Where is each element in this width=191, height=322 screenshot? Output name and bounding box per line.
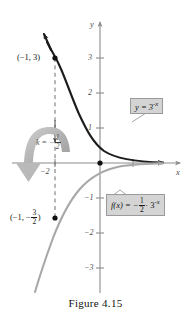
callout-parent-base: y = 3: [135, 102, 153, 112]
point-label-transformed-fraction: 32: [31, 209, 37, 225]
coordinate-plot: [0, 0, 191, 322]
point-label-transformed-tail: ): [38, 212, 41, 222]
figure-container: y x 3 2 1 −1 −2 −3 −2 (−1, 3) (−1, −32) …: [0, 0, 191, 322]
figure-caption: Figure 4.15: [0, 297, 191, 309]
y-tick-label-neg3: −3: [84, 264, 93, 272]
marked-point-transformed: [52, 215, 57, 220]
arrow-label-lead: k = −: [36, 138, 54, 147]
y-tick-label-1: 1: [88, 124, 92, 132]
x-tick-label-neg2: −2: [40, 168, 49, 176]
point-label-parent: (−1, 3): [17, 53, 40, 62]
curve-transformed-function: [35, 163, 163, 292]
y-axis-label: y: [90, 20, 94, 29]
y-intercept-parent-point: [97, 160, 102, 165]
point-label-transformed-lead: (−1, −: [10, 212, 31, 222]
y-tick-label-3: 3: [88, 54, 92, 62]
callout-transformed-lead: f(x) = −: [111, 200, 139, 210]
callout-parent-exponent: -x: [153, 100, 158, 107]
arrow-label-fraction: 12: [55, 134, 61, 150]
transformation-arrow-label: k = −12: [36, 134, 61, 150]
callout-transformed-mid: · 3: [145, 200, 154, 210]
point-label-transformed: (−1, −32): [10, 209, 41, 225]
callout-transformed-function: f(x) = −12· 3-x: [106, 194, 165, 216]
y-tick-label-neg1: −1: [84, 194, 93, 202]
y-tick-label-neg2: −2: [84, 229, 93, 237]
y-tick-label-2: 2: [88, 89, 92, 97]
callout-transformed-fraction: 12: [139, 197, 145, 213]
transformation-arrow-head: [16, 163, 41, 182]
x-axis-label: x: [176, 168, 180, 177]
callout-transformed-exponent: -x: [155, 198, 160, 205]
marked-point-parent: [52, 55, 57, 60]
leader-line-parent-callout: [132, 113, 146, 122]
curve-parent-upper-arrow: [44, 34, 51, 50]
callout-parent-function: y = 3-x: [130, 98, 163, 114]
